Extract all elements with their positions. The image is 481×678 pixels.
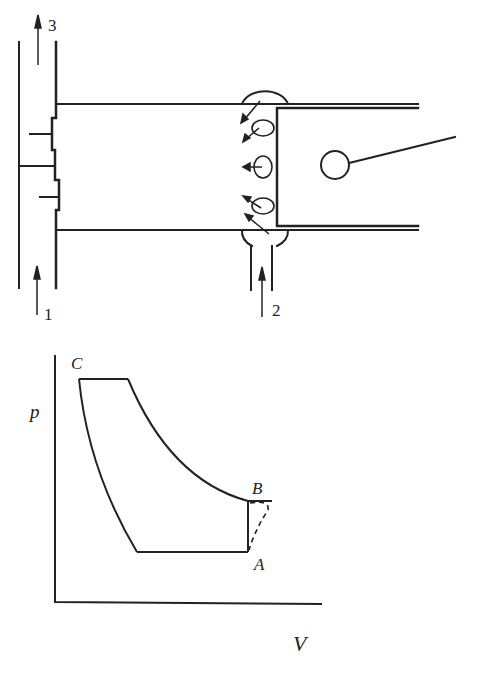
arrow-1-icon: [34, 266, 40, 279]
arrow-3-icon: [35, 15, 41, 28]
pv-diagram: [55, 355, 322, 604]
label-2: 2: [272, 302, 281, 319]
arrow-2-icon: [259, 267, 265, 280]
point-b-label: B: [252, 480, 262, 497]
upper-port-bulge: [242, 91, 288, 104]
lower-port-bulge-right: [277, 230, 288, 246]
label-3: 3: [48, 17, 57, 34]
expansion-curve: [128, 379, 248, 501]
point-c-label: C: [71, 355, 82, 372]
actual-blowdown-dashed: [249, 502, 268, 550]
v-axis-label: V: [293, 633, 306, 655]
lower-port-bulge-left: [242, 230, 252, 246]
p-axis-label: p: [30, 402, 40, 421]
piston: [277, 108, 418, 226]
piston-pin: [321, 151, 349, 179]
swirl-upper: [252, 120, 274, 136]
figure: 3 1 2 p V C B A: [0, 0, 481, 678]
compression-curve: [79, 379, 137, 552]
connecting-rod: [349, 137, 455, 163]
engine-schematic: [0, 0, 481, 678]
label-1: 1: [44, 306, 53, 323]
pv-axes: [55, 355, 322, 604]
swirl-lower: [252, 198, 274, 214]
point-a-label: A: [254, 556, 264, 573]
